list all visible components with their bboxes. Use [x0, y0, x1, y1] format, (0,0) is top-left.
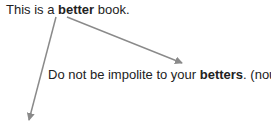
arrow-down-left-icon — [29, 17, 56, 120]
arrow-to-noun-icon — [67, 17, 182, 63]
arrows-diagram — [0, 0, 271, 124]
